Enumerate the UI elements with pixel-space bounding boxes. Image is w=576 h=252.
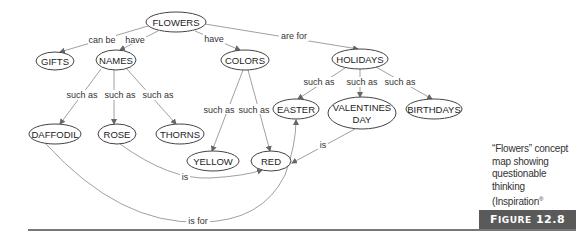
svg-text:GIFTS: GIFTS (41, 56, 69, 67)
svg-text:RED: RED (261, 156, 281, 167)
node-gifts: GIFTS (36, 52, 74, 70)
link-label-have-colors: have (204, 34, 224, 44)
svg-text:DAFFODIL: DAFFODIL (32, 129, 79, 140)
horizontal-rule (28, 229, 576, 231)
svg-text:VALENTINES: VALENTINES (333, 102, 391, 113)
node-rose: ROSE (98, 124, 136, 144)
link-label-such-as-thorns: such as (142, 90, 174, 100)
link-label-such-as-valentines: such as (346, 77, 378, 87)
node-red: RED (251, 151, 291, 171)
svg-text:NAMES: NAMES (99, 55, 133, 66)
link-label-such-as-birthdays: such as (384, 77, 416, 87)
link-label-valentines-is: is (320, 140, 327, 150)
link-label-such-as-red: such as (238, 105, 270, 115)
svg-text:FLOWERS: FLOWERS (153, 17, 200, 28)
link-label-such-as-daffodil: such as (66, 90, 98, 100)
svg-text:YELLOW: YELLOW (193, 156, 233, 167)
figure-number-label: FIGURE 12.8 (479, 210, 576, 229)
link-label-have-names: have (125, 35, 145, 45)
link-label-daffodil-is-for: is for (188, 216, 208, 226)
node-valentines-day: VALENTINES DAY (328, 97, 396, 129)
node-flowers: FLOWERS (146, 12, 206, 32)
svg-text:EASTER: EASTER (277, 104, 315, 115)
link-label-such-as-rose: such as (104, 90, 136, 100)
link-label-such-as-yellow: such as (203, 105, 235, 115)
link-label-are-for: are for (281, 31, 307, 41)
svg-text:THORNS: THORNS (160, 129, 200, 140)
svg-text:DAY: DAY (353, 114, 372, 125)
svg-text:HOLIDAYS: HOLIDAYS (336, 54, 383, 65)
svg-text:COLORS: COLORS (225, 55, 265, 66)
svg-text:ROSE: ROSE (104, 129, 131, 140)
node-holidays: HOLIDAYS (332, 49, 388, 69)
link-label-rose-is: is (182, 172, 189, 182)
node-colors: COLORS (221, 50, 269, 70)
node-thorns: THORNS (156, 124, 204, 144)
node-easter: EASTER (273, 99, 319, 119)
node-yellow: YELLOW (187, 151, 239, 171)
svg-text:BIRTHDAYS: BIRTHDAYS (407, 104, 461, 115)
link-label-can-be: can be (88, 35, 115, 45)
node-birthdays: BIRTHDAYS (406, 99, 462, 119)
link-label-such-as-easter: such as (303, 77, 335, 87)
node-names: NAMES (96, 50, 136, 70)
node-daffodil: DAFFODIL (29, 124, 81, 144)
